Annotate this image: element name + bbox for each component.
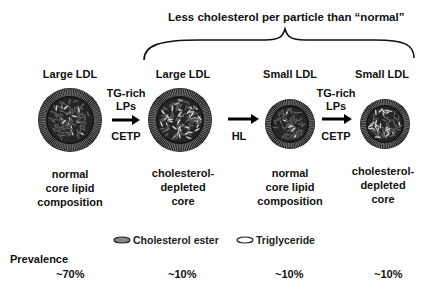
prevalence-value-4: ~10% (374, 268, 402, 280)
transition-2-below: HL (224, 130, 254, 143)
triglyceride-icon (237, 237, 253, 243)
large-ldl-normal-particle-icon (38, 88, 102, 152)
arrow-icon (322, 114, 352, 124)
description-line: core (343, 192, 423, 206)
transition-3-above-line-2: LPs (316, 100, 356, 113)
description-line: composition (250, 194, 330, 208)
description-line: core lipid (250, 180, 330, 194)
arrow-icon (228, 114, 259, 124)
description-line: core (143, 194, 223, 208)
description-line: composition (30, 195, 110, 209)
description-line: depleted (143, 180, 223, 194)
prevalence-value-3: ~10% (275, 268, 303, 280)
transition-1-above-line-1: TG-rich (106, 87, 146, 100)
large-ldl-depleted-particle-icon (148, 88, 212, 152)
legend-triglyceride-label: Triglyceride (256, 234, 315, 246)
prevalence-value-2: ~10% (168, 268, 196, 280)
prevalence-label: Prevalence (10, 253, 68, 265)
transition-3-below: CETP (316, 130, 356, 143)
cholesterol-ester-icon (114, 237, 130, 243)
transition-1-above-line-2: LPs (106, 100, 146, 113)
particle-description-3: normal core lipid composition (250, 166, 330, 208)
particle-description-1: normal core lipid composition (30, 167, 110, 209)
particle-description-2: cholesterol- depleted core (143, 166, 223, 208)
particle-description-4: cholesterol- depleted core (343, 164, 423, 206)
transition-3-above-line-1: TG-rich (316, 87, 356, 100)
description-line: normal (250, 166, 330, 180)
prevalence-value-1: ~70% (56, 268, 84, 280)
legend-cholesterol-ester-label: Cholesterol ester (133, 234, 219, 246)
description-line: depleted (343, 178, 423, 192)
small-ldl-depleted-particle-icon (360, 99, 410, 149)
lipoprotein-particles (0, 0, 423, 294)
small-ldl-normal-particle-icon (265, 99, 315, 149)
description-line: normal (30, 167, 110, 181)
arrow-icon (112, 115, 140, 125)
description-line: cholesterol- (143, 166, 223, 180)
description-line: cholesterol- (343, 164, 423, 178)
description-line: core lipid (30, 181, 110, 195)
transition-1-below: CETP (106, 130, 146, 143)
